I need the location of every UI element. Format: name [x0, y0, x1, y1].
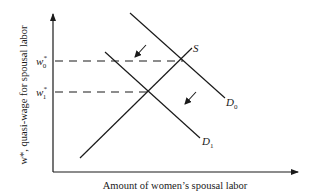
shift-arrow-upper-icon [135, 45, 146, 57]
supply-label: S [193, 42, 199, 54]
supply-curve-s [80, 48, 192, 158]
w1-tick-label: w*1 [36, 85, 47, 101]
demand0-label: D0 [225, 96, 238, 111]
x-axis-title: Amount of women’s spousal labor [103, 180, 248, 191]
supply-demand-diagram: w*0 w*1 S D0 D1 Amount of women’s spousa… [0, 0, 321, 195]
demand1-label: D1 [201, 135, 214, 150]
shift-arrow-lower-icon [185, 92, 196, 104]
y-axis-title: w*, quasi-wage for spousal labor [18, 25, 29, 165]
demand-curve-d1 [105, 52, 200, 138]
demand-curve-d0 [130, 13, 225, 98]
w0-tick-label: w*0 [36, 54, 47, 70]
